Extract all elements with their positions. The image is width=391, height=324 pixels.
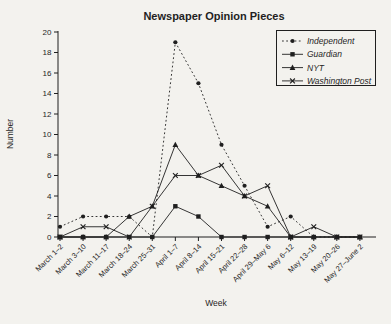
legend-label-washington-post: Washington Post bbox=[307, 76, 372, 86]
y-tick-label: 20 bbox=[43, 28, 52, 37]
data-point bbox=[242, 235, 246, 239]
legend: IndependentGuardianNYTWashington Post bbox=[277, 31, 376, 86]
y-tick-label: 2 bbox=[47, 212, 52, 221]
legend-label-guardian: Guardian bbox=[307, 49, 342, 59]
data-point bbox=[289, 214, 293, 218]
data-point bbox=[150, 235, 154, 239]
series-washington-post bbox=[58, 163, 363, 240]
data-point bbox=[173, 40, 177, 44]
data-point bbox=[266, 225, 270, 229]
y-tick-label: 14 bbox=[43, 89, 52, 98]
data-point bbox=[290, 52, 294, 56]
data-point bbox=[219, 183, 225, 188]
series-nyt bbox=[57, 142, 363, 240]
data-point bbox=[219, 235, 223, 239]
data-point bbox=[196, 81, 200, 85]
figure-container: Newspaper Opinion Pieces Number Week 024… bbox=[0, 0, 391, 324]
y-tick-label: 4 bbox=[47, 192, 52, 201]
y-tick-label: 16 bbox=[43, 69, 52, 78]
y-tick-label: 18 bbox=[43, 48, 52, 57]
series-line-nyt bbox=[60, 145, 360, 237]
data-point bbox=[104, 214, 108, 218]
data-point bbox=[242, 184, 246, 188]
data-point bbox=[58, 225, 62, 229]
y-tick-label: 6 bbox=[47, 171, 52, 180]
x-axis-label: Week bbox=[205, 298, 227, 308]
data-point bbox=[290, 39, 294, 43]
data-point bbox=[219, 143, 223, 147]
data-point bbox=[265, 235, 269, 239]
y-tick-label: 0 bbox=[47, 233, 52, 242]
y-tick-label: 12 bbox=[43, 110, 52, 119]
legend-label-independent: Independent bbox=[307, 36, 355, 46]
data-point bbox=[265, 203, 271, 208]
legend-label-nyt: NYT bbox=[307, 63, 325, 73]
newspaper-opinion-chart: Newspaper Opinion Pieces Number Week 024… bbox=[0, 0, 391, 324]
y-tick-label: 8 bbox=[47, 151, 52, 160]
y-tick-label: 10 bbox=[43, 130, 52, 139]
chart-title: Newspaper Opinion Pieces bbox=[143, 10, 284, 22]
series-guardian bbox=[58, 204, 362, 239]
data-point bbox=[173, 204, 177, 208]
data-point bbox=[196, 214, 200, 218]
data-point bbox=[172, 142, 178, 147]
y-axis-label: Number bbox=[5, 119, 15, 149]
series-line-guardian bbox=[60, 206, 360, 237]
data-point bbox=[81, 214, 85, 218]
